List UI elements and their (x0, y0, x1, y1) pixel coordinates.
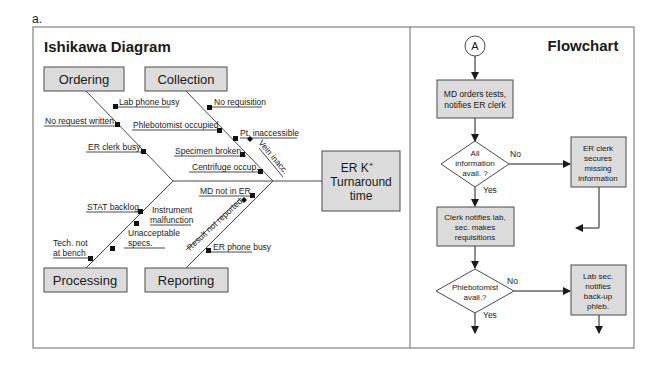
svg-text:malfunction: malfunction (150, 215, 194, 225)
svg-text:No request written: No request written (45, 116, 114, 126)
svg-text:Centrifuge occup.: Centrifuge occup. (192, 162, 259, 172)
svg-text:Pt. inaccessible: Pt. inaccessible (240, 128, 299, 138)
category-reporting: Reporting (145, 268, 228, 292)
svg-text:Specimen broken: Specimen broken (175, 146, 241, 156)
svg-text:A: A (471, 40, 479, 52)
svg-text:Instrument: Instrument (152, 205, 193, 215)
svg-text:specs.: specs. (128, 238, 153, 248)
cause-labels: Lab phone busy No request written ER cle… (45, 97, 299, 258)
svg-text:notifies ER clerk: notifies ER clerk (444, 100, 506, 110)
svg-text:Processing: Processing (53, 273, 117, 288)
svg-text:secures: secures (584, 154, 612, 163)
svg-text:Lab sec.: Lab sec. (583, 272, 613, 281)
svg-text:at bench: at bench (53, 248, 86, 258)
category-processing: Processing (44, 268, 127, 292)
decision-phlebotomist-available: Phlebotomist avail.? (436, 269, 514, 313)
svg-text:Clerk notifies lab,: Clerk notifies lab, (444, 213, 505, 222)
svg-text:missing: missing (584, 164, 611, 173)
svg-text:Tech. not: Tech. not (53, 238, 88, 248)
svg-text:time: time (350, 189, 373, 203)
category-collection: Collection (145, 67, 227, 91)
flowchart-title: Flowchart (548, 37, 619, 54)
svg-text:All: All (471, 149, 480, 158)
svg-text:avail.?: avail.? (463, 293, 487, 302)
step-lab-sec-notifies: Lab sec. notifies back-up phleb. (571, 265, 626, 315)
ishikawa-title: Ishikawa Diagram (44, 38, 171, 55)
svg-text:Ordering: Ordering (59, 72, 110, 87)
svg-text:Phlebotomist: Phlebotomist (452, 283, 499, 292)
svg-text:avail. ?: avail. ? (462, 169, 488, 178)
svg-text:sec. makes: sec. makes (455, 223, 495, 232)
step-er-clerk-secures: ER clerk secures missing information (571, 137, 626, 187)
svg-text:No requisition: No requisition (214, 97, 266, 107)
svg-text:Turnaround: Turnaround (330, 175, 392, 189)
svg-text:phleb.: phleb. (587, 302, 609, 311)
svg-text:STAT backlog: STAT backlog (87, 202, 139, 212)
label-yes-1: Yes (483, 185, 497, 195)
svg-text:Unacceptable: Unacceptable (128, 228, 180, 238)
svg-text:ER clerk: ER clerk (583, 144, 614, 153)
decision-info-available: All information avail. ? (441, 141, 509, 187)
svg-text:Phlebotomist occupied: Phlebotomist occupied (133, 120, 219, 130)
svg-text:Lab phone busy: Lab phone busy (119, 97, 180, 107)
svg-text:Reporting: Reporting (158, 273, 214, 288)
svg-text:back-up: back-up (584, 292, 613, 301)
label-yes-2: Yes (483, 310, 497, 320)
svg-text:information: information (578, 174, 618, 183)
step-md-orders: MD orders tests, notifies ER clerk (437, 80, 513, 118)
svg-text:information: information (455, 159, 495, 168)
svg-text:notifies: notifies (585, 282, 610, 291)
effect-box: ER K+ Turnaround time (322, 151, 400, 211)
svg-text:requisitions: requisitions (455, 233, 495, 242)
svg-text:ER clerk busy: ER clerk busy (88, 142, 141, 152)
step-clerk-notifies-lab: Clerk notifies lab, sec. makes requisiti… (437, 207, 514, 246)
svg-text:Collection: Collection (157, 72, 214, 87)
label-no-2: No (507, 276, 518, 286)
diagram-canvas: Ishikawa Diagram (0, 0, 667, 369)
label-no-1: No (510, 149, 521, 159)
svg-text:MD not in ER: MD not in ER (200, 186, 251, 196)
svg-text:MD orders tests,: MD orders tests, (444, 89, 506, 99)
connector-a: A (465, 36, 485, 56)
category-ordering: Ordering (44, 67, 124, 91)
svg-text:ER phone busy: ER phone busy (213, 242, 272, 252)
